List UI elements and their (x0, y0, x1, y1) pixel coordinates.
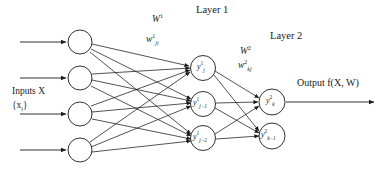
layer1-node-1-sup: 1 (201, 60, 204, 66)
weight1-element-subscript: ji (155, 40, 158, 46)
edges-input-to-layer1 (90, 44, 191, 152)
layer1-node-2-sup: 1 (197, 96, 200, 102)
layer2-node-label-2: y2k−1 (261, 131, 276, 139)
layer1-node-3-sub: j−2 (199, 137, 207, 143)
weight1-matrix-superscript: 1 (160, 13, 163, 19)
weight1-matrix-label: W1 (152, 15, 163, 25)
input-nodes (68, 30, 92, 162)
layer1-title: Layer 1 (196, 5, 228, 16)
weight1-matrix-symbol: W (152, 14, 160, 24)
input-node (68, 30, 92, 54)
inputs-set-close: } (23, 100, 28, 110)
input-node (68, 138, 92, 162)
weight2-matrix-label: W2 (240, 47, 251, 57)
layer1-node-label-3: y1j−2 (193, 133, 207, 141)
output-label: Output f(X, W) (297, 78, 359, 88)
inputs-set-label: {xi} (12, 101, 28, 111)
weight1-element-label: w1ji (146, 35, 159, 45)
layer1-node-label-1: y1j (197, 63, 205, 71)
layer2-title: Layer 2 (270, 31, 302, 42)
input-node (68, 66, 92, 90)
layer2-node-1-sup: 2 (270, 94, 273, 100)
weight2-element-subscript: kj (247, 66, 251, 72)
layer2-node-2-sup: 2 (265, 128, 268, 134)
input-node (68, 102, 92, 126)
layer2-node-label-1: y2k (266, 97, 275, 105)
weight2-matrix-superscript: 2 (248, 45, 251, 51)
layer2-node-2-sub: k−1 (267, 135, 276, 141)
weight2-element-label: w2kj (238, 61, 252, 71)
weight2-matrix-symbol: W (240, 46, 248, 56)
layer1-node-1-sub: j (203, 67, 204, 73)
neural-network-figure: Inputs X {xi} Layer 1 Layer 2 W1 w1ji W2… (0, 0, 389, 179)
layer1-node-3-sup: 1 (197, 130, 200, 136)
edges-layer1-to-layer2 (214, 71, 259, 139)
inputs-title: Inputs X (12, 87, 45, 97)
weight2-element-superscript: 2 (244, 59, 247, 65)
layer1-node-2-sub: j−1 (199, 103, 207, 109)
layer2-node-1-sub: k (272, 101, 274, 107)
network-canvas (0, 0, 389, 179)
inputs-set-open: {x (12, 100, 21, 110)
layer1-node-label-2: y1j−1 (193, 99, 207, 107)
weight1-element-superscript: 1 (152, 33, 155, 39)
